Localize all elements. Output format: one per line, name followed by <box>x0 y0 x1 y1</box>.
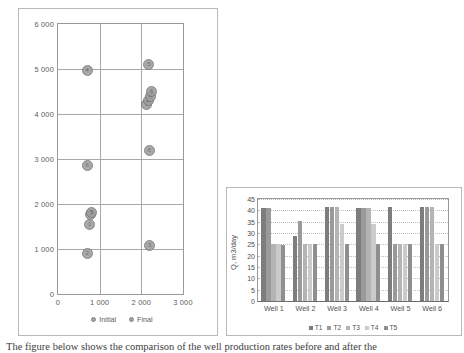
legend-swatch-t5-icon <box>384 326 388 330</box>
legend-swatch-t2-icon <box>327 326 331 330</box>
scatter-gridline-vertical <box>141 24 142 294</box>
scatter-data-point: 3 <box>144 240 155 251</box>
bar-x-tick-label: Well 1 <box>264 304 284 313</box>
bar-t2 <box>298 221 302 301</box>
legend-label-t4: T4 <box>371 324 379 331</box>
bar-t1 <box>388 207 392 301</box>
bar-t5 <box>376 244 380 301</box>
bar-t2 <box>425 207 429 301</box>
bar-legend: T1T2T3T4T5 <box>257 324 449 331</box>
legend-marker-initial-icon <box>91 317 96 322</box>
scatter-y-tick-label: 5 000 <box>35 65 55 74</box>
bar-x-tick-label: Well 4 <box>359 304 379 313</box>
legend-label-initial: Initial <box>99 315 116 324</box>
bar-group <box>290 199 322 301</box>
legend-label-t1: T1 <box>315 324 323 331</box>
bar-group <box>353 199 385 301</box>
bar-x-tick-label: Well 5 <box>391 304 411 313</box>
scatter-gridline-vertical <box>100 24 101 294</box>
legend-item-t2: T2 <box>327 324 341 331</box>
scatter-data-point: 6 <box>82 160 93 171</box>
bar-y-tick-label: 35 <box>247 218 255 225</box>
bar-t3 <box>398 244 402 301</box>
bar-group <box>416 199 448 301</box>
legend-item-t3: T3 <box>346 324 360 331</box>
bar-t1 <box>325 207 329 301</box>
legend-swatch-t3-icon <box>346 326 350 330</box>
legend-item-t4: T4 <box>365 324 379 331</box>
bar-t3 <box>430 207 434 301</box>
scatter-gridline-horizontal <box>58 249 183 250</box>
legend-label-t3: T3 <box>352 324 360 331</box>
scatter-y-tick-label: 3 000 <box>35 155 55 164</box>
legend-swatch-t1-icon <box>309 326 313 330</box>
bar-t2 <box>361 208 365 301</box>
bar-y-tick-label: 5 <box>251 286 255 293</box>
bar-y-tick-label: 45 <box>247 196 255 203</box>
bar-y-tick-label: 10 <box>247 275 255 282</box>
scatter-x-tick-label: 0 <box>56 298 60 307</box>
bar-t5 <box>440 244 444 301</box>
scatter-data-point: 4 <box>82 65 93 76</box>
figure-caption: The figure below shows the comparison of… <box>6 341 462 352</box>
bar-group <box>385 199 417 301</box>
bar-t5 <box>313 244 317 301</box>
bar-group <box>321 199 353 301</box>
bar-x-tick-label: Well 2 <box>296 304 316 313</box>
legend-item-t5: T5 <box>384 324 398 331</box>
legend-item-t1: T1 <box>309 324 323 331</box>
bar-t1 <box>356 208 360 301</box>
legend-marker-final-icon <box>129 317 134 322</box>
bar-x-tick-label: Well 6 <box>422 304 442 313</box>
bar-t2 <box>266 208 270 301</box>
bar-y-tick-label: 40 <box>247 207 255 214</box>
bar-t3 <box>271 244 275 301</box>
bar-y-axis-title: Q, m3/day <box>228 206 240 298</box>
bar-t1 <box>293 236 297 301</box>
bar-t3 <box>335 207 339 301</box>
bar-y-axis-title-text: Q, m3/day <box>230 234 239 269</box>
bar-t4 <box>435 244 439 301</box>
scatter-gridline-horizontal <box>58 159 183 160</box>
bar-t5 <box>281 245 285 301</box>
scatter-x-tick-label: 2 000 <box>132 298 152 307</box>
bar-x-tick-label: Well 3 <box>327 304 347 313</box>
bar-t1 <box>261 208 265 301</box>
legend-item-final: Final <box>129 315 153 324</box>
scatter-y-tick-label: 0 <box>50 290 54 299</box>
scatter-plot-area: 01 0002 0003 0004 0005 0006 00001 0002 0… <box>57 23 184 295</box>
bar-y-tick-label: 15 <box>247 264 255 271</box>
bar-t2 <box>330 207 334 301</box>
bar-chart-panel: Q, m3/day 051015202530354045Well 1Well 2… <box>226 187 462 336</box>
scatter-y-tick-label: 6 000 <box>35 20 55 29</box>
scatter-gridline-horizontal <box>58 69 183 70</box>
legend-label-final: Final <box>137 315 153 324</box>
bar-y-tick-label: 25 <box>247 241 255 248</box>
scatter-chart-panel: 01 0002 0003 0004 0005 0006 00001 0002 0… <box>18 8 218 336</box>
bar-group <box>258 199 290 301</box>
bar-t5 <box>408 244 412 301</box>
scatter-x-tick-label: 3 000 <box>173 298 193 307</box>
bar-t4 <box>403 244 407 301</box>
bar-t4 <box>308 244 312 301</box>
scatter-data-point: 1 <box>84 219 95 230</box>
bar-t4 <box>371 224 375 301</box>
bar-t4 <box>340 224 344 301</box>
scatter-data-point: 6 <box>144 145 155 156</box>
legend-label-t2: T2 <box>333 324 341 331</box>
scatter-y-tick-label: 4 000 <box>35 110 55 119</box>
bar-t3 <box>366 208 370 301</box>
bar-y-tick-label: 0 <box>251 298 255 305</box>
scatter-data-point: 2 <box>82 248 93 259</box>
bar-t3 <box>303 244 307 301</box>
scatter-legend: Initial Final <box>57 315 187 324</box>
bar-t2 <box>393 244 397 301</box>
scatter-y-tick-label: 1 000 <box>35 245 55 254</box>
figure-root: 01 0002 0003 0004 0005 0006 00001 0002 0… <box>0 0 464 353</box>
scatter-x-tick-label: 1 000 <box>90 298 110 307</box>
bar-t5 <box>345 244 349 301</box>
bar-t4 <box>276 244 280 301</box>
bar-y-tick-label: 20 <box>247 252 255 259</box>
bar-y-tick-label: 30 <box>247 230 255 237</box>
scatter-data-point: 6 <box>146 86 157 97</box>
